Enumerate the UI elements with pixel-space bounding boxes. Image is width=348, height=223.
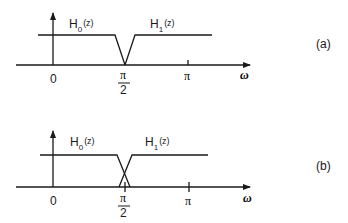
h1-label: H1(z) <box>150 17 175 34</box>
tick-half-pi-num: π <box>120 68 126 82</box>
tick-zero: 0 <box>50 194 57 208</box>
h1-label: H1(z) <box>145 135 170 152</box>
labels-b: H0(z) H1(z) 0 π 2 π ω (b) <box>50 135 331 220</box>
tick-zero: 0 <box>50 72 57 86</box>
h0-label: H0(z) <box>69 17 94 34</box>
h0-response <box>38 35 125 65</box>
h1-response <box>125 35 212 65</box>
tick-pi: π <box>185 194 191 208</box>
omega-label: ω <box>240 68 249 82</box>
diagram-a <box>16 13 250 65</box>
labels-a: H0(z) H1(z) 0 π 2 π ω (a) <box>50 17 331 97</box>
h1-response <box>119 155 208 187</box>
filter-bank-figure: H0(z) H1(z) 0 π 2 π ω (a) H0(z) H1(z) 0 … <box>0 0 348 223</box>
tick-half-pi-num: π <box>120 191 126 205</box>
tick-pi: π <box>184 69 190 83</box>
caption-a: (a) <box>316 37 331 51</box>
tick-half-pi-den: 2 <box>120 83 127 97</box>
h0-label: H0(z) <box>70 135 95 152</box>
omega-label: ω <box>243 191 252 205</box>
diagram-b <box>16 131 250 192</box>
tick-half-pi-den: 2 <box>120 206 127 220</box>
caption-b: (b) <box>316 159 331 173</box>
